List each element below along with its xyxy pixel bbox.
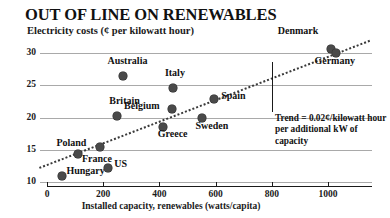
data-point-italy: [168, 84, 177, 93]
point-label-italy: Italy: [165, 67, 185, 78]
chart-root: OUT OF LINE ON RENEWABLES Electricity co…: [0, 0, 390, 218]
point-label-germany: Germany: [314, 55, 355, 66]
point-label-us: US: [114, 158, 127, 169]
x-tick-mark-1000: [328, 182, 329, 186]
point-label-hungary: Hungary: [66, 165, 104, 176]
x-axis-label: Installed capacity, renewables (watts/ca…: [82, 201, 261, 211]
x-tick-mark-600: [216, 182, 217, 186]
gridline-10: [40, 182, 372, 183]
y-tick-label-10: 10: [14, 176, 36, 186]
point-label-spain: Spain: [221, 90, 245, 101]
x-tick-mark-200: [103, 182, 104, 186]
x-axis-label-wrap: Installed capacity, renewables (watts/ca…: [0, 201, 390, 211]
data-point-britain: [113, 112, 122, 121]
x-tick-mark-400: [159, 182, 160, 186]
data-point-spain: [210, 94, 219, 103]
plot-area: 1015202530 02004006008001000 HungaryFran…: [0, 0, 390, 218]
x-tick-label-1000: 1000: [319, 189, 338, 199]
gridline-15: [40, 150, 372, 151]
x-axis-line: [47, 186, 372, 187]
data-point-us: [104, 164, 113, 173]
x-tick-label-0: 0: [45, 189, 50, 199]
point-label-australia: Australia: [107, 55, 147, 66]
trend-annotation: Trend = 0.02¢/kilowatt hour per addition…: [275, 113, 387, 147]
annotation-leader-line: [272, 62, 273, 112]
x-tick-label-400: 400: [152, 189, 166, 199]
point-label-france: France: [82, 153, 112, 164]
x-tick-mark-800: [272, 182, 273, 186]
x-tick-mark-0: [47, 182, 48, 186]
point-label-poland: Poland: [56, 137, 86, 148]
x-tick-label-600: 600: [208, 189, 222, 199]
x-tick-label-800: 800: [265, 189, 279, 199]
point-label-denmark: Denmark: [278, 25, 319, 36]
point-label-greece: Greece: [158, 128, 188, 139]
y-tick-label-20: 20: [14, 112, 36, 122]
gridline-30: [40, 53, 372, 54]
gridline-25: [40, 85, 372, 86]
y-tick-label-30: 30: [14, 47, 36, 57]
data-point-poland: [96, 142, 105, 151]
data-point-australia: [119, 72, 128, 81]
point-label-sweden: Sweden: [196, 120, 229, 131]
y-tick-label-15: 15: [14, 144, 36, 154]
x-tick-label-200: 200: [96, 189, 110, 199]
point-label-belgium: Belgium: [124, 100, 160, 111]
trend-annotation-line-1: Trend = 0.02¢/kilowatt: [275, 113, 365, 123]
y-tick-label-25: 25: [14, 79, 36, 89]
data-point-belgium: [168, 105, 177, 114]
